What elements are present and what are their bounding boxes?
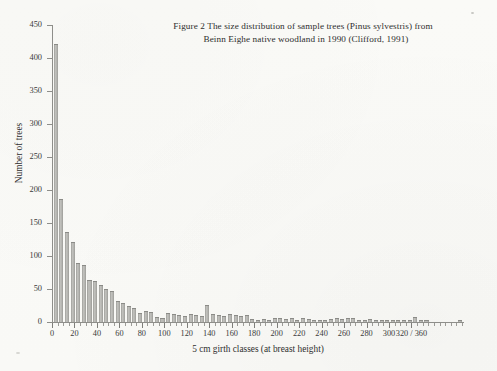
histogram-bar: [318, 320, 322, 322]
x-axis-minor-tick: [451, 323, 452, 326]
x-axis-minor-tick: [176, 323, 177, 326]
x-axis-tick-label: 140: [203, 329, 215, 338]
x-axis-minor-tick: [147, 323, 148, 326]
x-axis-major-tick: [119, 323, 120, 328]
y-axis-tick: [47, 124, 52, 125]
histogram-bar: [104, 289, 108, 322]
histogram-bar: [363, 320, 367, 322]
x-axis-minor-tick: [440, 323, 441, 326]
x-axis-minor-tick: [395, 323, 396, 326]
histogram-bar: [155, 317, 159, 322]
histogram-bar: [329, 319, 333, 322]
x-axis-minor-tick: [103, 323, 104, 326]
histogram-bar: [127, 306, 131, 322]
histogram-bar: [295, 320, 299, 322]
x-axis-tick-label: 0: [50, 329, 54, 338]
y-axis-title: Number of trees: [14, 98, 24, 208]
x-axis-tick-label: 100: [158, 329, 170, 338]
x-axis-minor-tick: [350, 323, 351, 326]
x-axis-minor-tick: [249, 323, 250, 326]
x-axis-tick-label: 320 / 360: [396, 329, 427, 338]
x-axis-major-tick: [299, 323, 300, 328]
histogram-bar: [65, 232, 69, 322]
histogram-bar: [138, 313, 142, 322]
x-axis-minor-tick: [316, 323, 317, 326]
x-axis-minor-tick: [338, 323, 339, 326]
x-axis-minor-tick: [383, 323, 384, 326]
histogram-bar: [284, 319, 288, 322]
x-axis-minor-tick: [282, 323, 283, 326]
histogram-bar: [71, 242, 75, 322]
histogram-bar: [149, 312, 153, 322]
x-axis-tick-label: 260: [338, 329, 350, 338]
x-axis-minor-tick: [63, 323, 64, 326]
x-axis-tick-label: 180: [248, 329, 260, 338]
histogram-bar: [335, 318, 339, 322]
x-axis-minor-tick: [327, 323, 328, 326]
histogram-bar: [211, 314, 215, 322]
histogram-bar: [368, 319, 372, 322]
histogram-bar: [189, 314, 193, 322]
x-axis-minor-tick: [204, 323, 205, 326]
x-axis-minor-tick: [265, 323, 266, 326]
y-axis-tick: [47, 91, 52, 92]
x-axis-minor-tick: [69, 323, 70, 326]
x-axis-major-tick: [97, 323, 98, 328]
x-axis-minor-tick: [131, 323, 132, 326]
x-axis-major-tick: [74, 323, 75, 328]
histogram-bar: [385, 320, 389, 322]
x-axis-major-tick: [411, 323, 412, 328]
scan-speck: [16, 352, 20, 354]
x-axis-minor-tick: [114, 323, 115, 326]
histogram-bar: [239, 316, 243, 322]
y-axis-tick-label: 350: [2, 86, 42, 95]
x-axis-minor-tick: [305, 323, 306, 326]
x-axis-minor-tick: [378, 323, 379, 326]
x-axis-minor-tick: [417, 323, 418, 326]
x-axis-tick-label: 220: [293, 329, 305, 338]
y-axis-tick-label: 100: [2, 251, 42, 260]
x-axis-minor-tick: [271, 323, 272, 326]
x-axis-minor-tick: [406, 323, 407, 326]
histogram-bar: [301, 318, 305, 322]
x-axis-major-tick: [232, 323, 233, 328]
histogram-bar: [307, 319, 311, 322]
x-axis-tick-label: 60: [115, 329, 123, 338]
x-axis-major-tick: [209, 323, 210, 328]
histogram-bar: [408, 320, 412, 322]
histogram-bar: [419, 320, 423, 322]
histogram-bar: [166, 313, 170, 322]
x-axis-minor-tick: [86, 323, 87, 326]
histogram-bar: [380, 320, 384, 322]
histogram-bar: [396, 320, 400, 322]
histogram-bar: [194, 315, 198, 322]
histogram-bar: [424, 320, 428, 322]
histogram-bar: [312, 320, 316, 322]
x-axis-minor-tick: [423, 323, 424, 326]
histogram-bar: [340, 319, 344, 322]
histogram-bar: [222, 316, 226, 322]
x-axis-major-tick: [277, 323, 278, 328]
histogram-bar: [374, 320, 378, 322]
x-axis-minor-tick: [170, 323, 171, 326]
histogram-bar: [160, 318, 164, 322]
x-axis-tick-label: 280: [360, 329, 372, 338]
histogram-bar: [256, 320, 260, 322]
y-axis-tick-label: 150: [2, 218, 42, 227]
x-axis-minor-tick: [237, 323, 238, 326]
x-axis-minor-tick: [91, 323, 92, 326]
x-axis-tick-label: 240: [315, 329, 327, 338]
y-axis-tick: [47, 256, 52, 257]
x-axis-minor-tick: [125, 323, 126, 326]
histogram-bar: [93, 281, 97, 322]
x-axis-minor-tick: [400, 323, 401, 326]
histogram-bar: [121, 303, 125, 322]
histogram-bar: [54, 44, 58, 322]
histogram-bar: [351, 318, 355, 322]
x-axis-major-tick: [187, 323, 188, 328]
histogram-bar: [346, 318, 350, 322]
histogram-bar: [116, 301, 120, 322]
x-axis-minor-tick: [243, 323, 244, 326]
x-axis-minor-tick: [58, 323, 59, 326]
x-axis-minor-tick: [215, 323, 216, 326]
